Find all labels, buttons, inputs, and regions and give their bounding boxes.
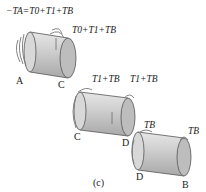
shaft-segment-db bbox=[132, 130, 191, 176]
torque-label-db-right: TB bbox=[188, 126, 199, 136]
figure-caption: (c) bbox=[93, 178, 104, 188]
torque-label-ac-right: T0+T1+TB bbox=[72, 25, 116, 35]
torque-label-cd-right: T1+TB bbox=[130, 74, 158, 84]
shaft-segment-cd bbox=[73, 88, 135, 136]
point-label-c-top: C bbox=[58, 80, 65, 90]
shaft-segment-ac bbox=[16, 29, 76, 78]
point-label-a: A bbox=[16, 76, 23, 86]
point-label-d: D bbox=[136, 172, 143, 182]
point-label-c: C bbox=[74, 132, 81, 142]
point-label-b: B bbox=[182, 180, 189, 190]
torque-label-cd-left: T1+TB bbox=[92, 74, 120, 84]
torque-label-ta: −TA=T0+T1+TB bbox=[6, 6, 73, 16]
torque-label-db-left: TB bbox=[144, 120, 155, 130]
point-label-d-top: D bbox=[122, 138, 129, 148]
